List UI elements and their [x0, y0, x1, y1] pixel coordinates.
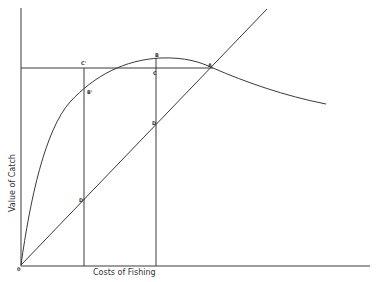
point-label-a: A — [208, 63, 212, 68]
point-label-b: B — [155, 53, 159, 58]
origin-label: 0 — [17, 267, 20, 272]
point-label-b-prime: B' — [87, 90, 92, 95]
value-of-catch-curve — [21, 58, 326, 265]
x-axis-label: Costs of Fishing — [93, 269, 156, 277]
point-label-c: C — [153, 71, 157, 76]
point-label-d-prime: D' — [79, 198, 85, 203]
fishery-diagram — [0, 0, 376, 282]
point-label-d: D — [152, 121, 156, 126]
cost-line — [21, 9, 267, 265]
y-axis-label: Value of Catch — [9, 154, 17, 212]
point-label-c-prime: C' — [81, 61, 86, 66]
